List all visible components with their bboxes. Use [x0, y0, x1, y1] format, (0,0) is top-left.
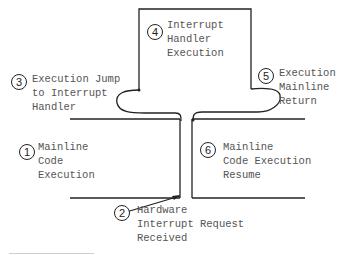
step-6-label: MainlineCode ExecutionResume — [223, 140, 311, 182]
step-6-line-1: Mainline — [223, 140, 311, 154]
step-3-line-2: to Interrupt — [32, 86, 120, 100]
step-4-badge: 4 — [147, 24, 163, 40]
step-3-line-3: Handler — [32, 100, 120, 114]
return-loop — [193, 89, 280, 121]
step-6-line-2: Code Execution — [223, 154, 311, 168]
step-2-line-1: Hardware — [137, 203, 244, 217]
step-5-line-2: Mainline — [279, 80, 336, 94]
step-1-line-3: Execution — [38, 168, 95, 182]
step-3-badge: 3 — [11, 74, 27, 90]
step-4-label: InterruptHandlerExecution — [167, 18, 224, 60]
step-4-line-3: Execution — [167, 46, 224, 60]
step-1-line-2: Code — [38, 154, 95, 168]
step-2-line-3: Received — [137, 231, 244, 245]
jump-loop — [117, 90, 181, 121]
step-6-line-3: Resume — [223, 168, 311, 182]
step-1-badge: 1 — [19, 144, 35, 160]
step-2-label: HardwareInterrupt RequestReceived — [137, 203, 244, 245]
step-4-line-2: Handler — [167, 32, 224, 46]
step-6-badge: 6 — [200, 142, 216, 158]
footnote-rule — [9, 253, 94, 254]
step-3-label: Execution Jumpto InterruptHandler — [32, 72, 120, 114]
step-5-line-3: Return — [279, 94, 336, 108]
step-4-line-1: Interrupt — [167, 18, 224, 32]
step-1-line-1: Mainline — [38, 140, 95, 154]
step-3-line-1: Execution Jump — [32, 72, 120, 86]
step-5-badge: 5 — [258, 68, 274, 84]
step-5-label: ExecutionMainlineReturn — [279, 66, 336, 108]
step-2-line-2: Interrupt Request — [137, 217, 244, 231]
step-1-label: MainlineCodeExecution — [38, 140, 95, 182]
step-2-badge: 2 — [114, 205, 130, 221]
step-5-line-1: Execution — [279, 66, 336, 80]
